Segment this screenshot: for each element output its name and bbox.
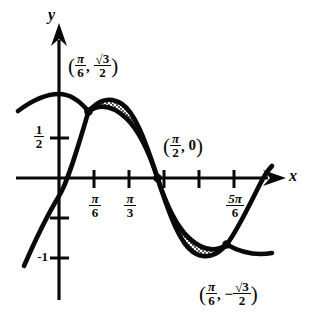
open-paren: ( xyxy=(163,134,170,158)
math-figure: y x (π6, √32) (π2, 0) (π6, −√32) π6 π3 5… xyxy=(0,0,312,330)
lower-intersection-label: (π6, −√32) xyxy=(199,281,258,309)
intersection-dot-upper xyxy=(84,107,93,116)
close-paren: ) xyxy=(111,54,118,78)
close-paren: ) xyxy=(251,282,258,306)
x-coord-fraction: π2 xyxy=(170,132,181,160)
shaded-region-upper xyxy=(89,100,158,178)
x-coord-fraction: π6 xyxy=(206,280,217,308)
open-paren: ( xyxy=(68,54,75,78)
open-paren: ( xyxy=(199,282,206,306)
intersection-dot-middle xyxy=(153,174,162,183)
sqrt-group: √3 xyxy=(94,52,112,65)
y-axis-label: y xyxy=(48,6,55,24)
y-coord-fraction: √32 xyxy=(233,280,251,308)
x-tick-label-pi-over-3: π3 xyxy=(119,193,141,221)
shaded-region-lower xyxy=(158,178,227,256)
x-tick-label-pi-over-6: π6 xyxy=(84,193,106,221)
y-coord-fraction: √32 xyxy=(94,52,112,80)
comma: , xyxy=(181,138,185,154)
x-axis-label: x xyxy=(289,167,297,185)
close-paren: ) xyxy=(196,134,203,158)
y-coord-zero: 0 xyxy=(189,137,197,153)
intersection-dot-lower xyxy=(222,240,231,249)
sqrt-group: √3 xyxy=(233,280,251,293)
upper-intersection-label: (π6, √32) xyxy=(68,53,118,81)
x-tick-label-5pi-over-6: 5π6 xyxy=(219,193,251,221)
minus-sign: − xyxy=(225,286,234,302)
comma: , xyxy=(217,286,221,302)
graph-canvas xyxy=(0,0,312,330)
y-tick-label-one-half: 12 xyxy=(30,124,48,152)
y-tick-label-neg-one: -1 xyxy=(24,249,48,265)
comma: , xyxy=(86,58,90,74)
x-coord-fraction: π6 xyxy=(75,52,86,80)
middle-crossing-label: (π2, 0) xyxy=(163,133,203,161)
